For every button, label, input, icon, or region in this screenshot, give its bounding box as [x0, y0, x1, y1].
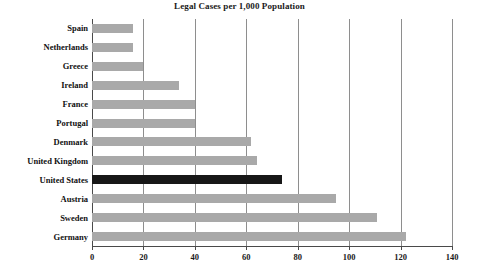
- bar-chart: Legal Cases per 1,000 Population 0204060…: [0, 0, 479, 272]
- x-tick-80: [298, 246, 299, 250]
- y-label-ireland: Ireland: [0, 80, 88, 90]
- gridline-120: [401, 19, 402, 246]
- y-label-austria: Austria: [0, 194, 88, 204]
- x-tick-100: [349, 246, 350, 250]
- x-tick-label-120: 120: [381, 252, 421, 262]
- bar-austria: [92, 194, 336, 203]
- y-axis-line: [92, 19, 93, 246]
- y-label-spain: Spain: [0, 23, 88, 33]
- x-tick-120: [401, 246, 402, 250]
- y-label-sweden: Sweden: [0, 213, 88, 223]
- gridline-140: [452, 19, 453, 246]
- x-tick-60: [246, 246, 247, 250]
- y-label-greece: Greece: [0, 61, 88, 71]
- bar-portugal: [92, 119, 195, 128]
- bar-netherlands: [92, 43, 133, 52]
- plot-area: 020406080100120140: [92, 19, 452, 246]
- x-tick-20: [143, 246, 144, 250]
- bar-united-kingdom: [92, 156, 257, 165]
- x-tick-0: [92, 246, 93, 250]
- y-label-denmark: Denmark: [0, 137, 88, 147]
- x-tick-label-100: 100: [329, 252, 369, 262]
- x-axis-line: [92, 246, 452, 247]
- gridline-20: [143, 19, 144, 246]
- bar-united-states: [92, 175, 282, 184]
- gridline-80: [298, 19, 299, 246]
- bar-germany: [92, 232, 406, 241]
- x-tick-label-40: 40: [175, 252, 215, 262]
- bar-sweden: [92, 213, 377, 222]
- bar-greece: [92, 62, 143, 71]
- chart-title: Legal Cases per 1,000 Population: [0, 1, 479, 11]
- y-label-france: France: [0, 99, 88, 109]
- y-label-united-kingdom: United Kingdom: [0, 156, 88, 166]
- gridline-100: [349, 19, 350, 246]
- x-tick-label-20: 20: [123, 252, 163, 262]
- x-tick-label-140: 140: [432, 252, 472, 262]
- bar-ireland: [92, 81, 179, 90]
- bar-spain: [92, 24, 133, 33]
- x-tick-label-80: 80: [278, 252, 318, 262]
- bar-denmark: [92, 137, 251, 146]
- y-label-portugal: Portugal: [0, 118, 88, 128]
- bar-france: [92, 100, 195, 109]
- gridline-60: [246, 19, 247, 246]
- x-tick-label-60: 60: [226, 252, 266, 262]
- y-label-germany: Germany: [0, 232, 88, 242]
- y-label-united-states: United States: [0, 175, 88, 185]
- gridline-40: [195, 19, 196, 246]
- x-tick-40: [195, 246, 196, 250]
- x-tick-140: [452, 246, 453, 250]
- x-tick-label-0: 0: [72, 252, 112, 262]
- y-label-netherlands: Netherlands: [0, 42, 88, 52]
